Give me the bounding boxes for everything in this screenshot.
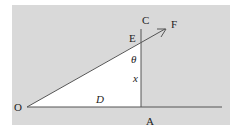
label-c: C [142,14,149,26]
label-a: A [146,115,154,127]
label-e: E [129,32,136,44]
label-o: O [14,101,22,113]
geometry-diagram: O A C E F θ x D [0,0,241,135]
label-d: D [95,93,104,105]
label-theta: θ [131,53,137,65]
label-x: x [132,72,138,84]
label-f: F [171,18,177,30]
